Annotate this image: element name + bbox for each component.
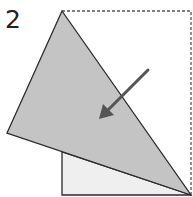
fold-diagram (0, 0, 193, 197)
